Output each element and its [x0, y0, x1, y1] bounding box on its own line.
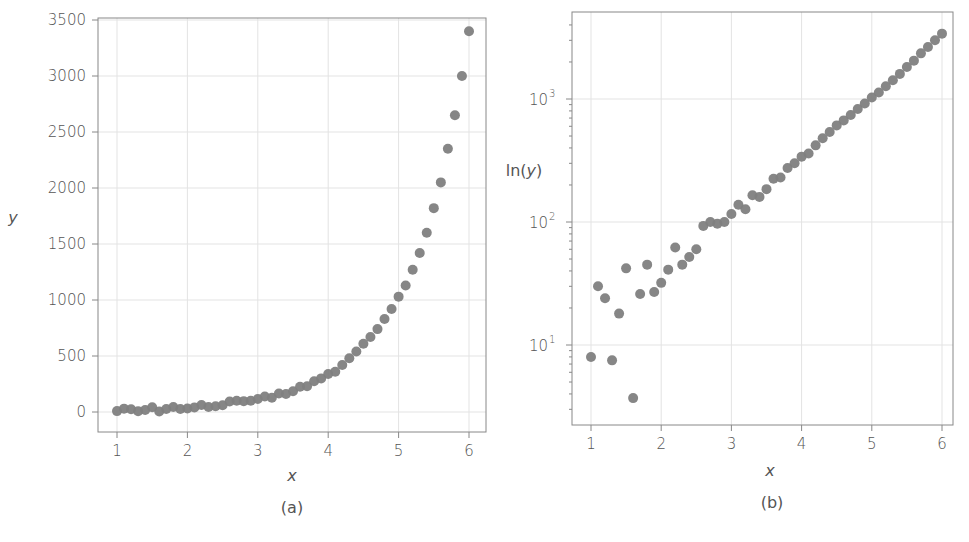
data-point	[586, 352, 596, 362]
data-point	[684, 252, 694, 262]
panel-a-frame	[98, 18, 486, 432]
data-point	[351, 347, 361, 357]
y-tick-exponent: 2	[549, 211, 555, 222]
panel-a-plot: 1234560500100015002000250030003500 x y (…	[7, 11, 486, 517]
x-tick-label: 3	[727, 435, 737, 453]
data-point	[691, 244, 701, 254]
y-tick-label: 10	[529, 337, 548, 355]
data-point	[436, 177, 446, 187]
data-point	[429, 203, 439, 213]
figure: 1234560500100015002000250030003500 x y (…	[0, 0, 969, 542]
y-tick-label: 1500	[48, 235, 86, 253]
panel-b-ylabel-var: y	[526, 161, 537, 180]
figure-caption-clipped	[0, 528, 969, 542]
data-point	[614, 309, 624, 319]
data-point	[443, 144, 453, 154]
data-point	[457, 71, 467, 81]
data-point	[726, 209, 736, 219]
data-point	[740, 204, 750, 214]
x-tick-label: 1	[586, 435, 596, 453]
y-tick-label: 10	[529, 214, 548, 232]
data-point	[642, 260, 652, 270]
panel-b-ylabel-suffix: )	[536, 161, 542, 180]
data-point	[464, 26, 474, 36]
data-point	[621, 263, 631, 273]
panel-b-xlabel: x	[764, 461, 775, 480]
data-point	[450, 110, 460, 120]
data-point	[380, 314, 390, 324]
data-point	[937, 29, 947, 39]
data-point	[628, 393, 638, 403]
x-tick-label: 5	[867, 435, 877, 453]
data-point	[811, 140, 821, 150]
panel-b-points	[586, 29, 947, 403]
data-point	[415, 248, 425, 258]
data-point	[649, 287, 659, 297]
data-point	[365, 332, 375, 342]
data-point	[372, 324, 382, 334]
x-tick-label: 1	[112, 442, 122, 460]
data-point	[804, 149, 814, 159]
x-tick-label: 5	[394, 442, 404, 460]
y-tick-label: 2500	[48, 123, 86, 141]
data-point	[909, 56, 919, 66]
data-point	[656, 278, 666, 288]
y-tick-label: 1000	[48, 291, 86, 309]
data-point	[635, 289, 645, 299]
panel-a-ylabel: y	[7, 208, 18, 227]
data-point	[719, 217, 729, 227]
y-tick-label: 2000	[48, 179, 86, 197]
x-tick-label: 2	[183, 442, 193, 460]
data-point	[607, 355, 617, 365]
y-tick-exponent: 1	[549, 334, 555, 345]
panel-a-points	[112, 26, 474, 416]
data-point	[670, 243, 680, 253]
data-point	[600, 293, 610, 303]
x-tick-label: 3	[253, 442, 263, 460]
x-tick-label: 6	[464, 442, 474, 460]
data-point	[408, 265, 418, 275]
data-point	[394, 292, 404, 302]
panel-a-grid	[98, 18, 486, 432]
data-point	[593, 281, 603, 291]
y-tick-label: 3500	[48, 11, 86, 29]
y-tick-label: 10	[529, 91, 548, 109]
y-tick-exponent: 3	[549, 88, 555, 99]
y-tick-label: 3000	[48, 67, 86, 85]
data-point	[677, 260, 687, 270]
x-tick-label: 2	[656, 435, 666, 453]
x-tick-label: 6	[937, 435, 947, 453]
panel-a-label: (a)	[281, 498, 303, 517]
data-point	[401, 280, 411, 290]
data-point	[663, 265, 673, 275]
panel-b-plot: 123456101102103 x ln(y) (b)	[506, 12, 953, 512]
x-tick-label: 4	[323, 442, 333, 460]
data-point	[754, 192, 764, 202]
x-tick-label: 4	[797, 435, 807, 453]
y-tick-label: 500	[57, 347, 86, 365]
data-point	[387, 304, 397, 314]
y-tick-label: 0	[76, 403, 86, 421]
panel-b-label: (b)	[761, 493, 784, 512]
panel-a-ticks: 1234560500100015002000250030003500	[48, 11, 474, 460]
panel-a-xlabel: x	[286, 466, 297, 485]
panel-b-ylabel: ln(y)	[506, 161, 543, 180]
panel-b-ylabel-prefix: ln(	[506, 161, 527, 180]
data-point	[762, 184, 772, 194]
data-point	[422, 228, 432, 238]
data-point	[776, 173, 786, 183]
